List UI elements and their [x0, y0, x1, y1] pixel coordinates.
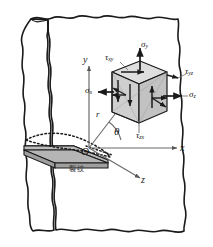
crack-annotation-text: 裂纹 — [69, 163, 85, 173]
stress-label-sigma-y: σy — [141, 40, 148, 50]
axis-label-y: y — [83, 55, 87, 65]
figure-canvas: y x z O r θ σy τxy τyz σz σx τzx 裂纹 — [0, 0, 213, 247]
stress-label-tau-zx: τzx — [136, 131, 144, 141]
axis-label-z: z — [141, 175, 145, 185]
solid-block — [21, 16, 185, 233]
figure-drawing — [0, 0, 213, 247]
stress-label-tau-yz: τyz — [185, 67, 193, 77]
radius-label-r: r — [96, 110, 100, 119]
origin-label-O: O — [81, 146, 89, 157]
angle-label-theta: θ — [114, 126, 119, 137]
stress-label-sigma-z: σz — [189, 90, 196, 100]
stress-label-tau-xy: τxy — [105, 53, 114, 63]
stress-label-sigma-x: σx — [85, 86, 92, 96]
axis-label-x: x — [180, 143, 184, 153]
